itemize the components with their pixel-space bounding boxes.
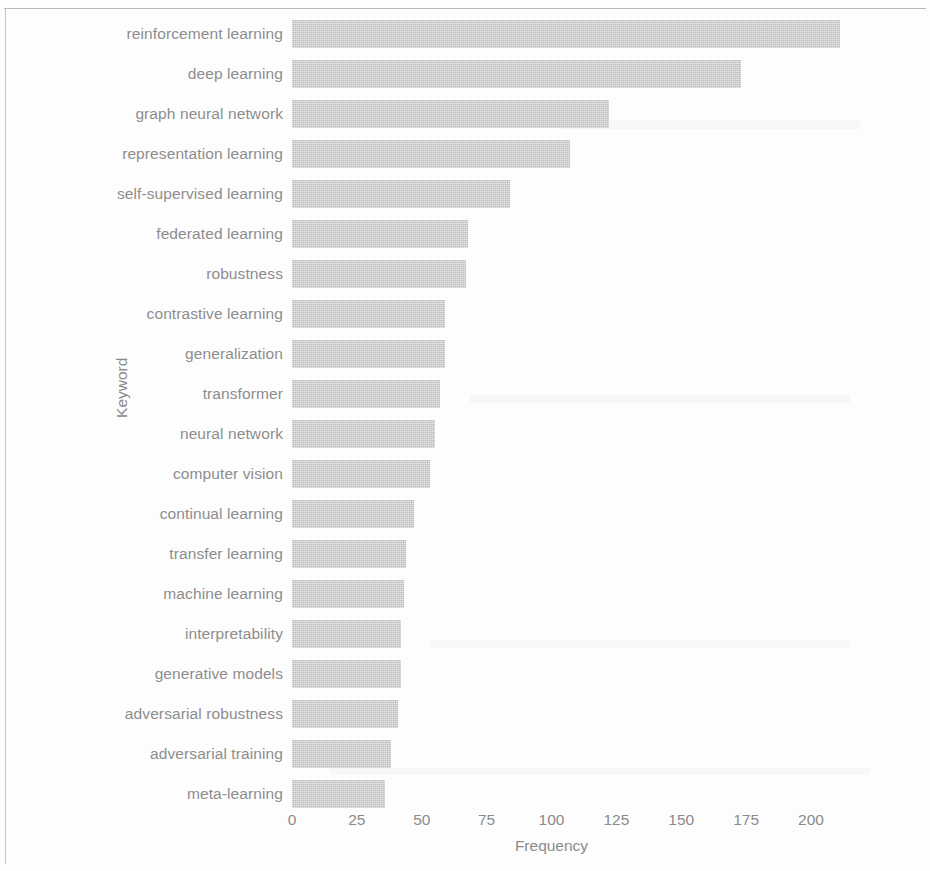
x-axis-tick-label: 25 [348, 812, 365, 828]
bar [292, 20, 840, 48]
bar-row: self-supervised learning [0, 174, 930, 214]
bar-category-label: robustness [40, 266, 283, 282]
x-axis-title: Frequency [292, 838, 811, 854]
bar-category-label: self-supervised learning [40, 186, 283, 202]
bar-category-label: graph neural network [40, 106, 283, 122]
x-axis-tick-label: 125 [603, 812, 629, 828]
bar-row: robustness [0, 254, 930, 294]
bar-row: computer vision [0, 454, 930, 494]
bar [292, 220, 468, 248]
bar [292, 180, 510, 208]
bar-row: continual learning [0, 494, 930, 534]
x-axis-tick-label: 175 [733, 812, 759, 828]
x-axis-tick-label: 50 [413, 812, 430, 828]
bar-row: federated learning [0, 214, 930, 254]
chart-page: reinforcement learningdeep learninggraph… [0, 0, 930, 871]
bar-category-label: reinforcement learning [40, 26, 283, 42]
bar-row: adversarial robustness [0, 694, 930, 734]
y-axis-title: Keyword [114, 328, 130, 448]
bar [292, 260, 466, 288]
x-axis-tick-label: 200 [798, 812, 824, 828]
bar [292, 540, 406, 568]
x-axis-tick-label: 0 [288, 812, 297, 828]
bar-category-label: transfer learning [40, 546, 283, 562]
bar-row: machine learning [0, 574, 930, 614]
bar [292, 460, 430, 488]
bar [292, 500, 414, 528]
bar-category-label: federated learning [40, 226, 283, 242]
bar-chart-plot-area: reinforcement learningdeep learninggraph… [0, 0, 930, 871]
bar-category-label: representation learning [40, 146, 283, 162]
bar [292, 580, 404, 608]
bar-row: transfer learning [0, 534, 930, 574]
bar [292, 660, 401, 688]
bar-row: reinforcement learning [0, 14, 930, 54]
bar [292, 340, 445, 368]
bar [292, 300, 445, 328]
bar-category-label: generalization [40, 346, 283, 362]
x-axis-tick-labels: 0255075100125150175200 [0, 812, 930, 836]
bar-category-label: computer vision [40, 466, 283, 482]
bar [292, 700, 398, 728]
x-axis-tick-label: 75 [478, 812, 495, 828]
bar [292, 140, 570, 168]
bar-category-label: generative models [40, 666, 283, 682]
bar [292, 60, 741, 88]
bar-category-label: transformer [40, 386, 283, 402]
bar-row: generative models [0, 654, 930, 694]
x-axis-tick-label: 100 [539, 812, 565, 828]
bar-category-label: continual learning [40, 506, 283, 522]
bar-row: meta-learning [0, 774, 930, 814]
bar [292, 740, 391, 768]
bar-row: representation learning [0, 134, 930, 174]
bar-row: neural network [0, 414, 930, 454]
bar-category-label: meta-learning [40, 786, 283, 802]
bar-category-label: adversarial training [40, 746, 283, 762]
bar-category-label: machine learning [40, 586, 283, 602]
bar-category-label: adversarial robustness [40, 706, 283, 722]
bar-category-label: neural network [40, 426, 283, 442]
x-axis-tick-label: 150 [668, 812, 694, 828]
bar-row: contrastive learning [0, 294, 930, 334]
bar-row: adversarial training [0, 734, 930, 774]
bar-category-label: deep learning [40, 66, 283, 82]
bar-row: generalization [0, 334, 930, 374]
bar-row: deep learning [0, 54, 930, 94]
bar-category-label: interpretability [40, 626, 283, 642]
bar [292, 380, 440, 408]
bar-row: transformer [0, 374, 930, 414]
bar [292, 420, 435, 448]
bar [292, 620, 401, 648]
bar-row: interpretability [0, 614, 930, 654]
bar-row: graph neural network [0, 94, 930, 134]
bar [292, 780, 385, 808]
bar-category-label: contrastive learning [40, 306, 283, 322]
bar [292, 100, 609, 128]
